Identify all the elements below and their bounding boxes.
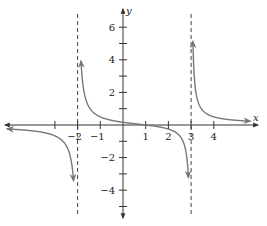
- x-tick-label: 3: [188, 131, 194, 142]
- rational-function-graph: −2−11234642−2−4 x y: [0, 0, 267, 226]
- x-tick-label: −2: [67, 131, 82, 142]
- y-tick-label: −2: [100, 152, 115, 163]
- y-tick-label: −4: [100, 185, 115, 196]
- curve-middle-branch: [81, 61, 188, 177]
- curve-right-branch: [193, 42, 250, 122]
- y-axis-label: y: [125, 5, 132, 16]
- curves: [7, 42, 250, 181]
- axes: [5, 9, 258, 218]
- x-axis-label: x: [253, 112, 259, 123]
- y-tick-label: 4: [109, 54, 115, 65]
- y-tick-label: 6: [109, 22, 115, 33]
- x-tick-label: −1: [90, 131, 105, 142]
- x-tick-label: 2: [165, 131, 171, 142]
- y-tick-label: 2: [109, 87, 115, 98]
- x-tick-label: 1: [143, 131, 149, 142]
- curve-left-branch: [7, 129, 73, 181]
- x-tick-label: 4: [211, 131, 217, 142]
